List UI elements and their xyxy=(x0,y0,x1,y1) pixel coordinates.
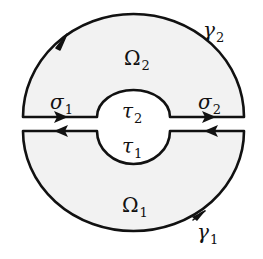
label-sigma2: σ2 xyxy=(198,92,221,112)
omega2-subscript: 2 xyxy=(142,58,150,73)
label-sigma1: σ1 xyxy=(50,92,73,112)
sigma1-symbol: σ xyxy=(50,90,64,114)
tau1-symbol: τ xyxy=(122,134,133,158)
omega2-symbol: Ω xyxy=(124,46,141,70)
gamma2-symbol: γ xyxy=(203,18,215,42)
gamma2-subscript: 2 xyxy=(216,30,224,45)
label-omega1: Ω1 xyxy=(122,195,148,215)
tau2-symbol: τ xyxy=(122,99,133,123)
sigma2-symbol: σ xyxy=(198,90,212,114)
label-tau1: τ1 xyxy=(122,136,142,156)
label-omega2: Ω2 xyxy=(124,48,150,68)
gamma1-symbol: γ xyxy=(197,220,209,244)
tau1-subscript: 1 xyxy=(134,146,142,161)
omega1-symbol: Ω xyxy=(122,193,139,217)
gamma1-subscript: 1 xyxy=(210,232,218,247)
sigma1-subscript: 1 xyxy=(65,102,73,117)
label-tau2: τ2 xyxy=(122,101,142,121)
label-gamma1: γ1 xyxy=(197,222,218,242)
omega1-subscript: 1 xyxy=(140,205,148,220)
tau2-subscript: 2 xyxy=(134,111,142,126)
sigma2-subscript: 2 xyxy=(213,102,221,117)
label-gamma2: γ2 xyxy=(203,20,224,40)
